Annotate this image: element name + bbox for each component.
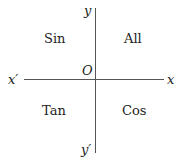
quadrant-4-label: Cos	[122, 104, 146, 117]
astc-quadrant-diagram: y y′ x′ x O Sin All Tan Cos	[0, 0, 185, 168]
quadrant-1-label: All	[124, 32, 142, 45]
y-axis-positive-label: y	[84, 4, 91, 17]
x-axis-negative-label: x′	[8, 73, 18, 86]
origin-label: O	[82, 64, 93, 77]
quadrant-2-label: Sin	[44, 32, 65, 45]
x-axis-line	[24, 79, 164, 80]
y-axis-negative-label: y′	[81, 143, 91, 156]
quadrant-3-label: Tan	[42, 104, 66, 117]
y-axis-line	[95, 8, 96, 153]
x-axis-positive-label: x	[167, 73, 174, 86]
